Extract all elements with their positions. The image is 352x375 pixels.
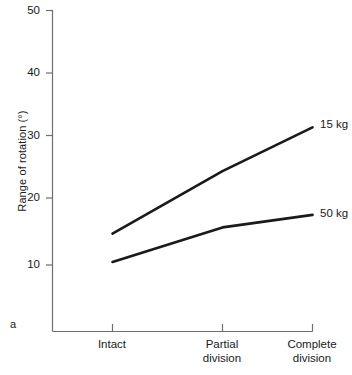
series-line-50kg xyxy=(113,215,313,262)
x-tick-label-intact-line1: Intact xyxy=(57,338,167,352)
x-tick-label-complete-line2: division xyxy=(257,352,352,366)
y-tick-label-40: 40 xyxy=(18,67,40,79)
y-axis-label: Range of rotation (°) xyxy=(16,76,28,246)
y-tick-label-50: 50 xyxy=(18,5,40,17)
panel-label: a xyxy=(10,318,16,330)
series-label-50kg: 50 kg xyxy=(320,208,348,220)
figure-panel-a: Range of rotation (°) 50 40 30 20 10 Int… xyxy=(0,0,352,375)
x-axis-ticks xyxy=(113,324,313,332)
y-tick-label-20: 20 xyxy=(18,192,40,204)
series-label-15kg: 15 kg xyxy=(320,119,348,131)
y-tick-label-10: 10 xyxy=(18,259,40,271)
x-tick-label-complete-line1: Complete xyxy=(257,338,352,352)
chart-canvas xyxy=(0,0,352,375)
x-tick-label-intact: Intact xyxy=(57,338,167,352)
y-tick-label-30: 30 xyxy=(18,130,40,142)
series-line-15kg xyxy=(113,127,313,233)
y-axis-ticks xyxy=(46,11,53,266)
x-tick-label-complete-division: Complete division xyxy=(257,338,352,365)
